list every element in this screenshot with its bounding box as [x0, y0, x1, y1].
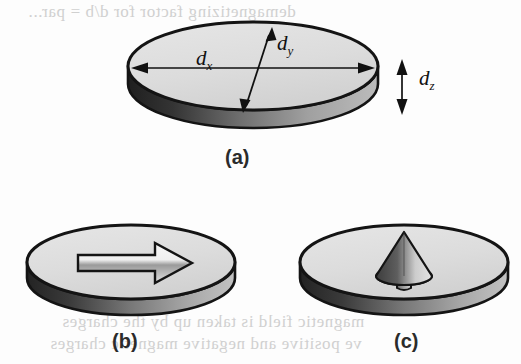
- panel-caption-c: (c): [394, 330, 418, 353]
- dimension-symbol-dy: d: [277, 31, 288, 55]
- dimension-label-dy: dy: [277, 31, 293, 59]
- panel-caption-b: (b): [112, 330, 138, 353]
- dimension-symbol-dx: d: [196, 46, 207, 70]
- panel-caption-a: (a): [225, 146, 249, 169]
- dimension-subscript-y: y: [288, 43, 294, 58]
- dimension-subscript-x: x: [207, 58, 213, 73]
- dimension-symbol-dz: d: [419, 66, 430, 90]
- figure-container: demagnetizing factor for d/b = par... ma…: [0, 0, 521, 364]
- dimension-arrow-dz: [397, 59, 408, 115]
- dimension-subscript-z: z: [430, 78, 435, 93]
- panel-a-top-face: [128, 22, 378, 110]
- dimension-label-dz: dz: [419, 66, 435, 94]
- figure-drawing: [0, 0, 521, 364]
- dimension-label-dx: dx: [196, 46, 212, 74]
- panel-a-disk: [128, 22, 378, 128]
